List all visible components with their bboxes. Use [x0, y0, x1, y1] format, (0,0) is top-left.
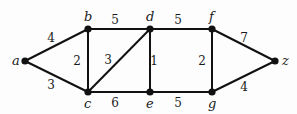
- node-f: [208, 25, 215, 32]
- edge-weight-d-f: 5: [174, 13, 182, 27]
- edge-c-d: [88, 29, 150, 92]
- node-a: [21, 57, 28, 64]
- node-z: [271, 57, 278, 64]
- edge-weight-c-d: 3: [104, 53, 112, 67]
- node-label-f: f: [208, 9, 216, 24]
- node-b: [84, 25, 91, 32]
- edge-weight-b-d: 5: [111, 13, 119, 27]
- node-g: [208, 88, 215, 95]
- node-c: [84, 88, 91, 95]
- edge-weight-a-b: 4: [47, 31, 55, 45]
- edge-weight-f-g: 2: [198, 54, 206, 68]
- edge-weight-b-c: 2: [73, 54, 81, 68]
- edge-weight-g-z: 4: [240, 80, 248, 94]
- node-e: [146, 88, 153, 95]
- node-label-b: b: [84, 9, 92, 24]
- node-label-e: e: [146, 96, 154, 111]
- node-label-g: g: [208, 96, 216, 111]
- graph-diagram: 432536155274 abcdefgz: [0, 0, 297, 114]
- edge-weight-a-c: 3: [47, 78, 55, 92]
- edge-weight-c-e: 6: [111, 96, 119, 110]
- node-label-a: a: [12, 53, 20, 68]
- node-d: [146, 25, 153, 32]
- node-label-z: z: [281, 53, 289, 68]
- node-label-c: c: [84, 96, 92, 111]
- node-label-d: d: [146, 9, 154, 24]
- edge-weight-d-e: 1: [150, 54, 158, 68]
- edge-weight-f-z: 7: [240, 31, 248, 45]
- graph-svg: 432536155274 abcdefgz: [0, 0, 297, 114]
- edge-weight-e-g: 5: [174, 96, 182, 110]
